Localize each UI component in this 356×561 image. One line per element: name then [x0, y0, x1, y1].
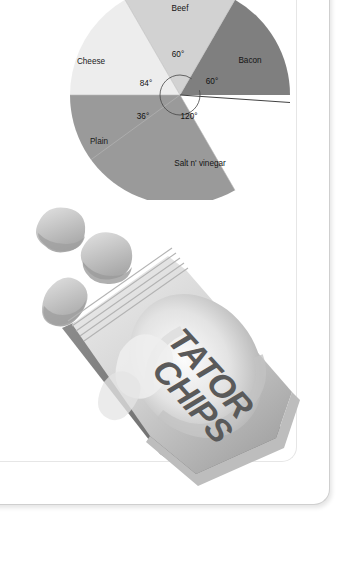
pie-angle-label-bacon: 60° [206, 77, 218, 86]
pie-label-salt-n-vinegar: Salt n' vinegar [174, 159, 226, 168]
pie-label-cheese: Cheese [77, 57, 106, 66]
reference-line-horizontal [180, 95, 290, 103]
page-root: Beef Bacon Cheese Plain Salt n' vinegar … [0, 0, 356, 561]
flying-chip-1 [36, 207, 85, 252]
flying-chip-2 [81, 232, 132, 284]
pie-chart: Beef Bacon Cheese Plain Salt n' vinegar … [0, 0, 310, 200]
pie-angle-label-salt-n-vinegar: 120° [181, 112, 198, 121]
pie-chart-svg: Beef Bacon Cheese Plain Salt n' vinegar … [0, 0, 310, 200]
pie-label-beef: Beef [172, 4, 190, 13]
pie-angle-label-beef: 60° [172, 50, 184, 59]
pie-angle-label-cheese: 84° [140, 79, 152, 88]
pie-label-bacon: Bacon [238, 56, 262, 65]
pie-label-plain: Plain [90, 137, 109, 146]
pie-angle-label-plain: 36° [137, 112, 149, 121]
tator-chips-illustration: TATOR CHIPS [0, 186, 330, 516]
tator-chips-svg: TATOR CHIPS [0, 186, 330, 516]
